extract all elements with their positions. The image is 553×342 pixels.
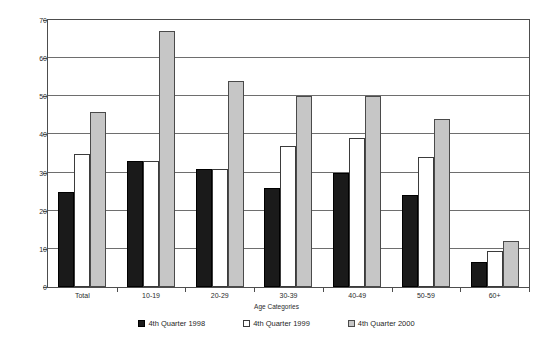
bar <box>127 161 143 287</box>
y-tick-label: 0 <box>7 284 47 291</box>
y-tick-label: 10 <box>7 245 47 252</box>
bar <box>90 112 106 287</box>
x-tick-mark <box>185 288 186 292</box>
y-tick-label: 50 <box>7 93 47 100</box>
bar <box>228 81 244 287</box>
white-square-icon <box>243 320 250 327</box>
chart-legend: 4th Quarter 19984th Quarter 19994th Quar… <box>0 319 553 328</box>
y-tick-label: 40 <box>7 131 47 138</box>
x-tick-mark <box>529 288 530 292</box>
black-square-icon <box>138 320 145 327</box>
bar <box>365 96 381 287</box>
bar <box>349 138 365 287</box>
x-tick-label: 50-59 <box>417 292 435 299</box>
legend-label: 4th Quarter 1999 <box>253 319 310 328</box>
bar <box>74 154 90 288</box>
bar <box>487 251 503 287</box>
x-tick-mark <box>254 288 255 292</box>
bar-group <box>254 20 323 287</box>
bar <box>296 96 312 287</box>
bar-groups <box>48 20 529 287</box>
x-tick-label: 40-49 <box>348 292 366 299</box>
x-tick-mark <box>460 288 461 292</box>
bar <box>212 169 228 287</box>
y-tick-label: 20 <box>7 207 47 214</box>
y-tick-label: 60 <box>7 55 47 62</box>
bar <box>503 241 519 287</box>
x-tick-label: 30-39 <box>280 292 298 299</box>
bar-group <box>185 20 254 287</box>
x-axis-title: Age Categories <box>0 303 553 310</box>
bar <box>264 188 280 287</box>
bar <box>280 146 296 287</box>
bar <box>434 119 450 287</box>
bar-group <box>460 20 529 287</box>
bar <box>58 192 74 287</box>
bar <box>143 161 159 287</box>
y-axis: 010203040506070 <box>0 0 47 342</box>
bar <box>471 262 487 287</box>
legend-item: 4th Quarter 2000 <box>348 319 415 328</box>
bar <box>333 173 349 287</box>
bar-chart: % of Population 010203040506070 Age Cate… <box>0 0 553 342</box>
legend-item: 4th Quarter 1999 <box>243 319 310 328</box>
bar <box>196 169 212 287</box>
bar-group <box>392 20 461 287</box>
x-tick-mark <box>392 288 393 292</box>
bar-group <box>48 20 117 287</box>
x-tick-label: 60+ <box>489 292 501 299</box>
x-tick-mark <box>323 288 324 292</box>
bar-group <box>323 20 392 287</box>
legend-item: 4th Quarter 1998 <box>138 319 205 328</box>
x-tick-label: 10-19 <box>142 292 160 299</box>
gray-square-icon <box>348 320 355 327</box>
bar <box>418 157 434 287</box>
y-tick-label: 30 <box>7 169 47 176</box>
x-tick-label: Total <box>75 292 90 299</box>
legend-label: 4th Quarter 1998 <box>148 319 205 328</box>
x-tick-label: 20-29 <box>211 292 229 299</box>
bar <box>402 195 418 287</box>
bar-group <box>117 20 186 287</box>
bar <box>159 31 175 287</box>
legend-label: 4th Quarter 2000 <box>358 319 415 328</box>
y-tick-label: 70 <box>7 17 47 24</box>
x-tick-mark <box>117 288 118 292</box>
